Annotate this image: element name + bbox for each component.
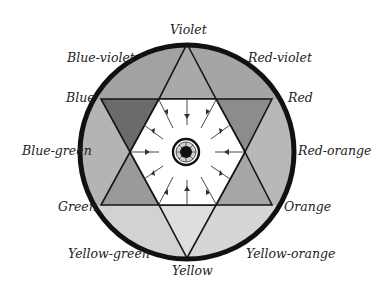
label-blue-violet: Blue-violet (67, 52, 135, 65)
label-yellow-green: Yellow-green (68, 248, 150, 261)
label-orange: Orange (284, 201, 331, 214)
label-red: Red (288, 92, 313, 105)
label-violet: Violet (170, 24, 207, 37)
color-wheel-diagram: Violet Red-violet Red Red-orange Orange … (0, 0, 372, 291)
label-yellow: Yellow (172, 265, 213, 278)
label-blue: Blue (66, 92, 95, 105)
center-target (173, 139, 199, 165)
label-green: Green (58, 201, 97, 214)
label-blue-green: Blue-green (22, 145, 92, 158)
label-red-violet: Red-violet (248, 52, 312, 65)
label-yellow-orange: Yellow-orange (246, 248, 335, 261)
label-red-orange: Red-orange (298, 145, 371, 158)
